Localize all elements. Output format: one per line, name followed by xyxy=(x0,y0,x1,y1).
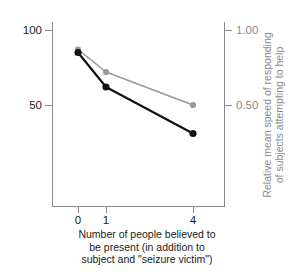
data-point xyxy=(189,130,196,137)
series-line-percentage xyxy=(78,53,193,134)
chart-figure: 100 50 1.00 0.50 0 1 4 Percentage of sub… xyxy=(0,0,294,275)
data-point xyxy=(74,49,81,56)
data-point xyxy=(103,69,109,75)
data-layer xyxy=(0,0,294,275)
series-line-relative-speed xyxy=(78,50,193,106)
data-point xyxy=(190,102,196,108)
data-point xyxy=(102,83,109,90)
